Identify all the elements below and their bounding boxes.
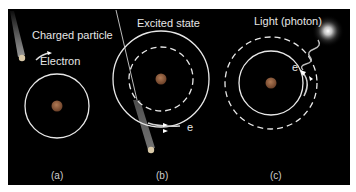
label-electron: Electron [40,56,80,67]
particle-trail-b [133,100,155,150]
particle-trail-a [10,11,25,57]
caption-c: (c) [270,171,282,181]
nucleus-a [52,101,63,112]
caption-a: (a) [51,171,63,181]
label-electron-c: e [292,62,298,73]
photon-wave [302,40,320,70]
charged-particle [19,55,25,61]
label-electron-b: e [187,122,193,133]
panel-b [113,10,209,153]
panel-c [225,15,344,129]
caption-b: (b) [156,171,168,181]
label-excited-state: Excited state [137,18,200,29]
nucleus-b [156,74,167,85]
nucleus-c [266,78,277,89]
arrowhead-c2 [309,76,313,81]
label-charged-particle: Charged particle [32,30,113,41]
label-light-photon: Light (photon) [254,16,322,27]
charged-particle-b [148,147,154,153]
arrowhead-b2 [163,129,168,133]
